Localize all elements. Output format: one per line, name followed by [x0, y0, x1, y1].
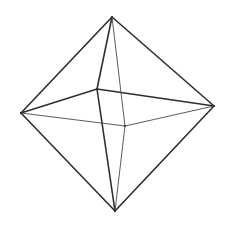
edge-front-right [125, 106, 214, 126]
edge-front-bottom [115, 126, 125, 211]
vertex-top [111, 16, 113, 18]
vertex-left [20, 112, 22, 114]
edge-bottom-right [115, 106, 214, 211]
vertex-front [124, 125, 126, 127]
edge-bottom-left [21, 113, 115, 211]
octahedron-diagram [0, 0, 227, 226]
edge-left-front [21, 113, 125, 126]
edge-top-front [112, 17, 125, 126]
edge-top-back [97, 17, 112, 89]
vertex-back [96, 88, 98, 90]
vertex-right [213, 105, 215, 107]
vertex-group [20, 16, 215, 212]
edge-back-bottom [97, 89, 115, 211]
edge-group [21, 17, 214, 211]
vertex-bottom [114, 210, 116, 212]
